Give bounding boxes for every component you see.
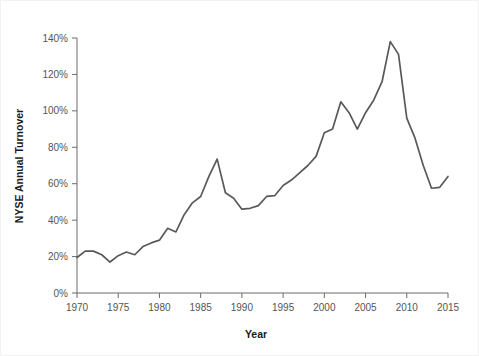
- x-tick-label: 2010: [396, 302, 419, 313]
- data-series-group: [77, 42, 448, 262]
- x-axis-title: Year: [245, 328, 267, 340]
- y-tick-label: 0%: [54, 288, 69, 299]
- y-tick-label: 100%: [42, 105, 68, 116]
- x-tick-label: 1980: [148, 302, 171, 313]
- x-tick-label: 1990: [231, 302, 254, 313]
- x-tick-label: 1970: [66, 302, 89, 313]
- y-axis-title: NYSE Annual Turnover: [13, 109, 25, 223]
- y-tick-label: 60%: [48, 178, 68, 189]
- x-tick-label: 1985: [190, 302, 213, 313]
- y-axis: 0%20%40%60%80%100%120%140%: [42, 33, 77, 299]
- y-tick-label: 140%: [42, 33, 68, 44]
- chart-figure: 0%20%40%60%80%100%120%140% 1970197519801…: [0, 0, 479, 356]
- y-tick-label: 40%: [48, 215, 68, 226]
- x-axis: 1970197519801985199019952000200520102015: [66, 293, 460, 313]
- y-tick-label: 120%: [42, 69, 68, 80]
- y-tick-label: 80%: [48, 142, 68, 153]
- x-tick-label: 2000: [313, 302, 336, 313]
- x-tick-label: 1975: [107, 302, 130, 313]
- y-tick-label: 20%: [48, 251, 68, 262]
- x-tick-label: 1995: [272, 302, 295, 313]
- line-chart: 0%20%40%60%80%100%120%140% 1970197519801…: [1, 1, 479, 356]
- x-tick-label: 2015: [437, 302, 460, 313]
- x-tick-label: 2005: [354, 302, 377, 313]
- series-line: [77, 42, 448, 262]
